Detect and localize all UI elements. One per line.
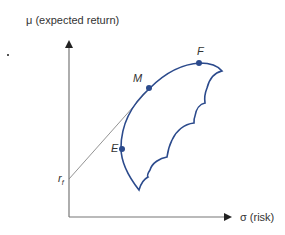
x-axis-label: σ (risk) [240,211,274,223]
point-E-marker [119,146,125,152]
rf-label-sub: f [62,179,64,186]
point-M-label: M [133,72,142,84]
y-axis-label: μ (expected return) [26,14,119,26]
point-F-label: F [197,45,204,57]
stray-dot [7,54,9,56]
rf-label: rf [58,172,64,186]
point-E-label: E [111,142,118,154]
point-M-marker [146,85,152,91]
diagram-canvas [0,0,285,235]
point-F-marker [196,60,202,66]
